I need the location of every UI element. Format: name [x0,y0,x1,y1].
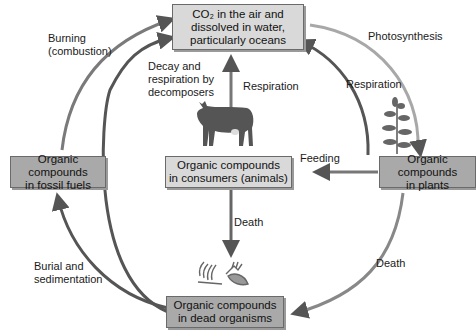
arrow-respiration-plant [302,42,368,155]
node-fossil: Organic compounds in fossil fuels [10,156,106,188]
label-feeding: Feeding [300,152,340,165]
label-decay: Decay and respiration by decomposers [148,60,214,99]
label-burning: Burning (combustion) [48,32,112,58]
label-respiration-animal: Respiration [243,80,299,93]
node-plants: Organic compounds in plants [379,156,476,188]
plant-icon [382,97,412,154]
arrow-death-plant [296,193,403,313]
label-burial: Burial and sedimentation [34,260,103,286]
node-co2: CO₂ in the air and dissolved in water, p… [172,4,304,50]
node-dead: Organic compounds in dead organisms [166,296,284,328]
skeleton-icon [198,262,248,285]
label-death-animal: Death [234,216,263,229]
label-respiration-plant: Respiration [346,78,402,91]
label-death-plant: Death [376,257,405,270]
cow-icon [197,101,253,146]
arrow-burial [58,198,168,308]
node-consumers: Organic compounds in consumers (animals) [165,156,292,188]
label-photosynthesis: Photosynthesis [368,30,443,43]
